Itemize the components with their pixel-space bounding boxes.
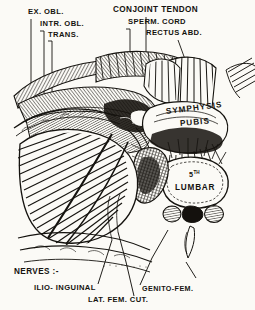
label-intr-obl: INTR. OBL. <box>40 20 84 28</box>
label-ilio-inguinal: ILIO- INGUINAL <box>34 284 96 292</box>
label-conjoint-tendon: CONJOINT TENDON <box>113 6 198 14</box>
label-sperm-cord: SPERM. CORD <box>128 18 186 26</box>
label-ex-obl: EX. OBL. <box>28 8 64 16</box>
engraving-artwork <box>0 0 255 310</box>
label-lumbar: LUMBAR <box>175 184 215 192</box>
label-genito-fem: GENITO-FEM. <box>142 285 193 292</box>
label-trans: TRANS. <box>48 31 79 39</box>
label-lat-fem-cut: LAT. FEM. CUT. <box>88 296 148 304</box>
anatomical-plate: EX. OBL. INTR. OBL. TRANS. CONJOINT TEND… <box>0 0 255 310</box>
label-rectus-abd: RECTUS ABD. <box>146 29 202 37</box>
label-nerves-heading: NERVES :- <box>14 268 59 276</box>
fifth-superscript: TH <box>193 170 199 175</box>
label-fifth-ordinal: 5TH <box>189 171 200 179</box>
